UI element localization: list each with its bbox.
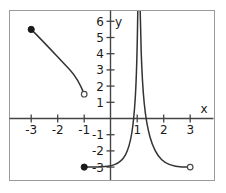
y-axis-label: y	[115, 15, 122, 29]
y-tick-label-4: 4	[96, 47, 104, 61]
endpoint-open-circle-right-bottom	[187, 164, 193, 170]
y-tick-label--1: -1	[92, 128, 104, 142]
endpoint-filled-dot-left-top	[28, 26, 34, 32]
x-tick-label--3: -3	[25, 123, 37, 137]
y-tick-label-2: 2	[96, 80, 104, 94]
x-tick-label--2: -2	[52, 123, 64, 137]
x-tick-label-3: 3	[186, 123, 194, 137]
x-axis-label: x	[200, 102, 207, 116]
x-tick-label--1: -1	[78, 123, 90, 137]
y-tick-label--2: -2	[92, 144, 104, 158]
function-graph-plot: -3 -2 -1 1 2 3 6 5 4 3 2 1 -1 -2 -3 y x	[0, 0, 226, 193]
y-tick-label-1: 1	[96, 96, 104, 110]
graph-figure: -3 -2 -1 1 2 3 6 5 4 3 2 1 -1 -2 -3 y x	[0, 0, 226, 193]
y-tick-label-5: 5	[96, 31, 104, 45]
y-tick-label-3: 3	[96, 63, 104, 77]
endpoint-filled-dot-lower-left	[81, 164, 87, 170]
endpoint-open-circle-left-bottom	[81, 91, 87, 97]
plot-frame	[10, 11, 215, 181]
y-tick-label-6: 6	[96, 15, 104, 29]
x-tick-label-1: 1	[133, 123, 141, 137]
x-tick-label-2: 2	[160, 123, 168, 137]
